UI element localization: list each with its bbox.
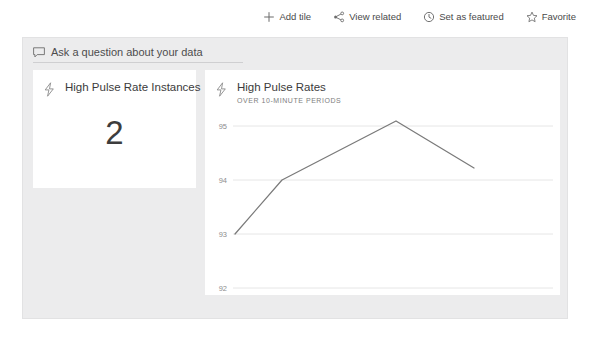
y-tick-label: 92 <box>219 284 227 293</box>
tile-title-group: High Pulse Rates OVER 10-MINUTE PERIODS <box>237 81 341 104</box>
y-tick-label: 95 <box>219 122 227 131</box>
pulse-icon <box>215 82 228 97</box>
pulse-icon <box>43 82 56 97</box>
star-icon <box>526 11 538 23</box>
view-related-button[interactable]: View related <box>333 11 401 23</box>
chart-line-series <box>235 121 474 234</box>
add-tile-button[interactable]: Add tile <box>263 11 311 23</box>
add-tile-label: Add tile <box>279 12 311 22</box>
kpi-value: 2 <box>33 116 196 149</box>
tile-header: High Pulse Rate Instances <box>33 70 196 97</box>
qna-search-input[interactable]: Ask a question about your data <box>33 43 243 63</box>
speech-bubble-icon <box>33 47 45 58</box>
share-icon <box>333 11 345 23</box>
line-chart: 95 94 93 92 10:22:00 AM 10:23:00 AM 10:2… <box>205 110 560 295</box>
tile-high-pulse-rate-instances[interactable]: High Pulse Rate Instances 2 <box>33 70 196 188</box>
tile-header: High Pulse Rates OVER 10-MINUTE PERIODS <box>205 70 560 104</box>
favorite-button[interactable]: Favorite <box>526 11 576 23</box>
tile-subtitle: OVER 10-MINUTE PERIODS <box>237 97 341 104</box>
set-as-featured-button[interactable]: Set as featured <box>423 11 503 23</box>
chart-gridlines <box>233 126 553 288</box>
set-as-featured-label: Set as featured <box>439 12 503 22</box>
tile-title: High Pulse Rate Instances <box>65 81 201 94</box>
dashboard-toolbar: Add tile View related Set as featured <box>0 0 590 34</box>
tile-title: High Pulse Rates <box>237 81 341 94</box>
view-related-label: View related <box>349 12 401 22</box>
plus-icon <box>263 11 275 23</box>
favorite-label: Favorite <box>542 12 576 22</box>
tile-high-pulse-rates[interactable]: High Pulse Rates OVER 10-MINUTE PERIODS … <box>205 70 560 295</box>
chart-svg: 95 94 93 92 10:22:00 AM 10:23:00 AM 10:2… <box>205 110 560 295</box>
qna-placeholder-text: Ask a question about your data <box>51 47 203 58</box>
y-axis-ticks: 95 94 93 92 <box>219 122 227 293</box>
y-tick-label: 93 <box>219 230 227 239</box>
clock-icon <box>423 11 435 23</box>
y-tick-label: 94 <box>219 176 227 185</box>
